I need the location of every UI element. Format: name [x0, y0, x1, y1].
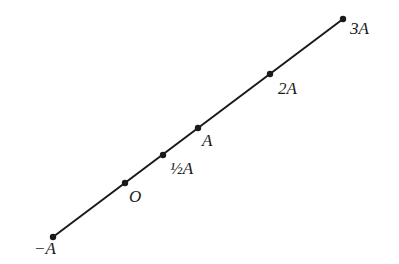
- point-origin: [122, 180, 128, 186]
- label-two-a: 2A: [278, 80, 297, 97]
- point-half-a: [160, 152, 166, 158]
- number-line-svg: [0, 0, 399, 264]
- label-a: A: [202, 132, 212, 149]
- point-a: [195, 125, 201, 131]
- label-half-a: ½A: [170, 160, 193, 177]
- point-three-a: [340, 16, 346, 22]
- label-origin: O: [129, 188, 141, 205]
- label-three-a: 3A: [350, 20, 369, 37]
- number-line-diagram: −A O ½A A 2A 3A: [0, 0, 399, 264]
- point-two-a: [267, 71, 273, 77]
- label-neg-a: −A: [34, 240, 56, 257]
